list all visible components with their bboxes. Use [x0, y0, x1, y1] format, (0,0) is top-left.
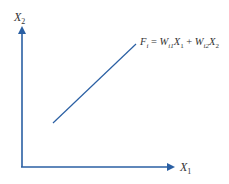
diagram-canvas: X2 X1 Fi = Wi1X1 + Wi2X2 [0, 0, 229, 184]
y-axis-label: X2 [13, 10, 25, 26]
equation-label: Fi = Wi1X1 + Wi2X2 [139, 36, 219, 50]
x-axis-label: X1 [179, 160, 191, 176]
linear-function-line [53, 44, 136, 123]
